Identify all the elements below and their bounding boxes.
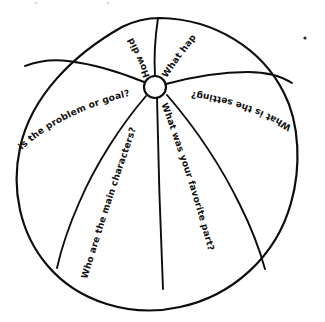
ball-outline <box>17 18 298 310</box>
question-main-characters: Who are the main characters? <box>79 126 138 280</box>
seam-upper-left <box>25 60 144 82</box>
question-favorite-part: What was your favorite part? <box>159 102 216 252</box>
beach-ball-drawing: How did it What hap What is the setting?… <box>0 0 325 322</box>
speck-top-right-icon <box>303 36 306 39</box>
speck-top-edge-left-icon <box>35 2 38 5</box>
question-problem-or-goal: is the problem or goal? <box>16 88 130 152</box>
seam-top-center <box>155 18 158 76</box>
question-what-is-the-setting: What is the setting? <box>190 90 292 133</box>
seam-right-lower <box>167 95 265 269</box>
question-how-did-it: How did it <box>0 0 152 79</box>
seam-left-lower <box>57 96 146 268</box>
question-what-hap: What hap <box>160 32 198 79</box>
speck-top-edge-mid-icon <box>107 2 109 4</box>
beach-ball-diagram-canvas: How did it What hap What is the setting?… <box>0 0 325 322</box>
seam-bottom-center <box>157 98 163 289</box>
center-hub <box>144 76 166 98</box>
